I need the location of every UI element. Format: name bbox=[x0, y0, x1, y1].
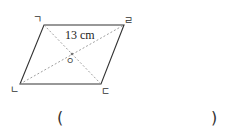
vertex-label-top-left: ㄱ bbox=[33, 15, 42, 25]
answer-blank[interactable] bbox=[70, 108, 210, 128]
measurement-label: 13 cm bbox=[64, 29, 96, 41]
vertex-label-bottom-right: ㄷ bbox=[101, 87, 110, 97]
answer-open-paren: ( bbox=[57, 110, 63, 126]
center-label: ㅇ bbox=[66, 57, 74, 66]
vertex-label-bottom-left: ㄴ bbox=[10, 85, 19, 95]
answer-close-paren: ) bbox=[211, 110, 217, 126]
center-point bbox=[71, 53, 74, 56]
vertex-label-top-right: ㄹ bbox=[124, 16, 133, 26]
